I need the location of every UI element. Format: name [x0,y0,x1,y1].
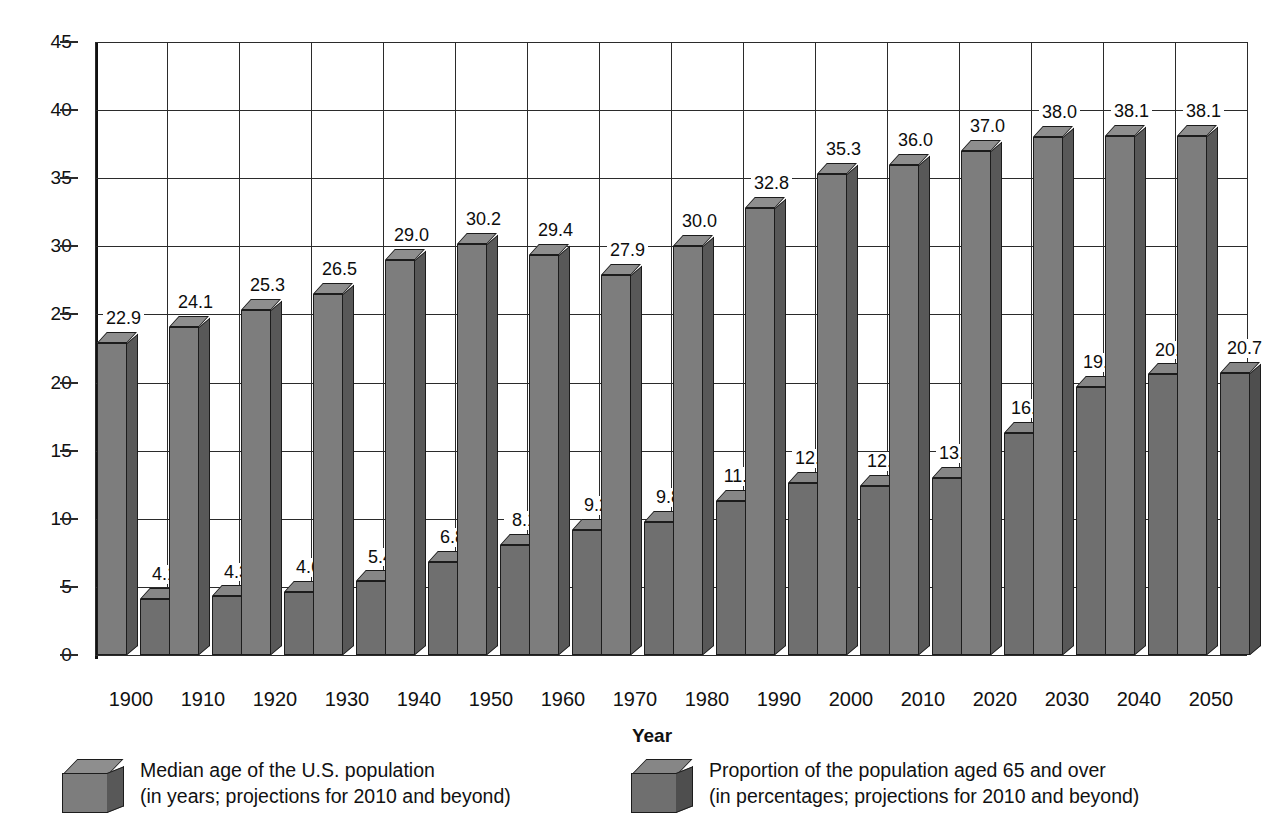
bar-front-face [860,486,890,655]
bar-front-face [313,294,343,655]
x-axis-tick-label: 1940 [383,688,455,711]
bar [1105,136,1146,655]
y-axis-tick-mark [60,313,78,315]
bar-side-face [1250,364,1261,655]
bar-front-face [1148,374,1178,655]
bar-value-label: 25.3 [247,276,288,295]
bar-front-face [644,522,674,655]
bar-front-face [97,343,127,655]
bar-value-label: 32.8 [751,174,792,193]
bar-side-face [1135,127,1146,655]
bar-value-label: 38.1 [1111,102,1152,121]
y-axis-tick-mark [60,654,78,656]
x-axis-tick-label: 2030 [1031,688,1103,711]
bar-front-face [212,596,242,655]
y-axis-ticks: 051015202530354045 [30,42,72,655]
x-axis-tick-label: 1970 [599,688,671,711]
bar-side-face [127,334,138,655]
bar-side-face [991,142,1002,655]
bar-side-face [775,199,786,655]
x-axis-tick-label: 2040 [1103,688,1175,711]
bar [817,174,858,655]
bar [169,327,210,655]
x-axis-tick-label: 1990 [743,688,815,711]
y-axis-tick-mark [60,382,78,384]
y-axis-tick-mark [60,245,78,247]
bar [313,294,354,655]
bar-front-face [673,246,703,655]
bar-side-face [1207,127,1218,655]
bar-front-face [500,545,530,655]
bar [1177,136,1218,655]
bar [385,260,426,655]
bar-front-face [169,327,199,655]
bar-front-face [817,174,847,655]
x-axis-tick-label: 2000 [815,688,887,711]
bar-value-label: 22.9 [103,309,144,328]
bar [601,275,642,655]
x-axis-tick-label: 2020 [959,688,1031,711]
bar-value-label: 29.0 [391,226,432,245]
bar-value-label: 36.0 [895,131,936,150]
y-axis-tick-mark [60,450,78,452]
bar-front-face [457,244,487,655]
x-axis-tick-label: 2050 [1175,688,1247,711]
x-axis-title-label: Year [632,725,672,746]
bar-front-face [428,562,458,655]
bar-side-face [415,251,426,655]
bar-front-face [601,275,631,655]
bar-front-face [1220,373,1250,655]
x-axis-tick-label: 1920 [239,688,311,711]
x-axis-tick-label: 1950 [455,688,527,711]
bar-value-label: 29.4 [535,221,576,240]
x-axis-tick-label: 1910 [167,688,239,711]
x-axis-title: Year [0,725,1284,747]
bar-front-face [1105,136,1135,655]
gridline-vertical [167,42,168,655]
legend-swatch-icon [62,759,124,813]
legend-label-line1: Median age of the U.S. population [140,757,511,783]
bar-front-face [716,501,746,655]
bar-front-face [529,255,559,655]
legend-item: Median age of the U.S. population (in ye… [62,757,511,813]
y-axis-tick-mark [60,586,78,588]
bar-front-face [572,530,602,655]
bar-side-face [343,285,354,655]
bar-value-label: 35.3 [823,140,864,159]
bar-side-face [199,317,210,655]
bar-front-face [745,208,775,655]
gridline-horizontal [95,655,1247,656]
bar [1220,373,1261,655]
bar-chart: 051015202530354045 22.94.124.14.325.34.6… [0,0,1284,836]
plot-area: 22.94.124.14.325.34.626.55.429.06.830.28… [95,42,1247,655]
bar-front-face [1033,137,1063,655]
legend-label-line1: Proportion of the population aged 65 and… [709,757,1139,783]
bar [673,246,714,655]
bar-value-label: 20.7 [1224,339,1265,358]
bar-front-face [889,165,919,655]
x-axis-tick-label: 1960 [527,688,599,711]
bar-value-label: 30.2 [463,210,504,229]
bar-front-face [385,260,415,655]
legend-label: Proportion of the population aged 65 and… [709,757,1139,810]
legend-label: Median age of the U.S. population (in ye… [140,757,511,810]
bar-front-face [241,310,271,655]
legend-label-line2: (in years; projections for 2010 and beyo… [140,783,511,809]
x-axis-tick-label: 1980 [671,688,743,711]
chart-legend: Median age of the U.S. population (in ye… [0,757,1284,827]
bar-value-label: 30.0 [679,212,720,231]
bar [889,165,930,655]
bar-side-face [919,155,930,655]
x-axis-tick-label: 1930 [311,688,383,711]
bar-front-face [932,478,962,655]
legend-item: Proportion of the population aged 65 and… [631,757,1139,813]
bar-side-face [847,165,858,655]
bar [961,151,1002,655]
bar [241,310,282,655]
bar-value-label: 24.1 [175,293,216,312]
bar-front-face [284,592,314,655]
bar-side-face [271,301,282,655]
bar-front-face [788,483,818,655]
x-axis-tick-label: 2010 [887,688,959,711]
bar-front-face [961,151,991,655]
